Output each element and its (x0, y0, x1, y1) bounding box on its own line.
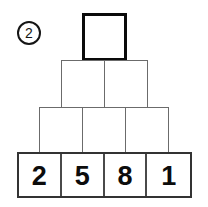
pyramid-row-3 (39, 107, 170, 153)
pyramid-cell-value: 5 (75, 163, 90, 190)
pyramid-cell-value: 2 (32, 163, 47, 190)
pyramid-cell-filled[interactable]: 8 (105, 154, 148, 196)
question-number-badge: 2 (17, 21, 41, 45)
question-number-label: 2 (25, 26, 33, 40)
pyramid-cell-empty[interactable] (82, 107, 126, 153)
number-pyramid-puzzle: 2 2 5 8 (0, 0, 208, 207)
pyramid-row-2 (61, 60, 149, 108)
pyramid-cell-filled[interactable]: 1 (147, 154, 190, 196)
pyramid-cell-empty[interactable] (104, 60, 148, 108)
pyramid-cell-empty[interactable] (61, 60, 105, 108)
pyramid-cell-value: 1 (161, 163, 176, 190)
pyramid-cell-filled[interactable]: 5 (62, 154, 105, 196)
pyramid-cell-filled[interactable]: 2 (19, 154, 62, 196)
pyramid-row-4: 2 5 8 1 (17, 152, 192, 198)
pyramid-cell-value: 8 (117, 163, 132, 190)
pyramid-cell-empty[interactable] (39, 107, 83, 153)
pyramid-cell-empty[interactable] (125, 107, 169, 153)
pyramid-cell-target[interactable] (82, 13, 127, 61)
pyramid-row-1 (82, 13, 127, 61)
